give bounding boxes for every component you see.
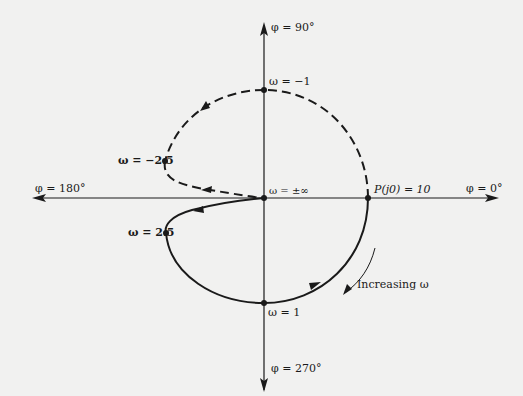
axis-label-phi-90: φ = 90° xyxy=(271,22,314,34)
dashed-direction-arrow-icon xyxy=(200,101,210,111)
label-w-1: ω = 1 xyxy=(268,307,300,319)
positive-frequency-curve xyxy=(166,198,368,303)
vertical-axis xyxy=(260,22,268,392)
key-points xyxy=(162,87,371,306)
label-w-neg2-5: ω = −2.5 xyxy=(118,155,174,167)
axis-label-phi-180: φ = 180° xyxy=(35,183,85,195)
label-w-pm-inf: ω = ±∞ xyxy=(269,185,309,197)
point-w-neg1 xyxy=(261,87,267,93)
point-w-1 xyxy=(261,300,267,306)
negative-frequency-curve xyxy=(165,90,368,198)
label-w-neg1: ω = −1 xyxy=(269,76,310,88)
point-w-pm-inf xyxy=(261,195,267,201)
dashed-direction-arrow-icon xyxy=(201,186,212,193)
annotation-increasing-omega: Increasing ω xyxy=(357,279,429,291)
increasing-arrowhead-icon xyxy=(343,284,352,295)
label-w-2-5: ω = 2.5 xyxy=(128,227,175,239)
polar-plot-canvas xyxy=(0,0,523,396)
axis-label-phi-0: φ = 0° xyxy=(466,183,502,195)
solid-direction-arrow-icon xyxy=(309,282,321,290)
label-p-j0: P(j0) = 10 xyxy=(374,184,431,196)
point-p-j0 xyxy=(365,195,371,201)
axis-label-phi-270: φ = 270° xyxy=(271,363,321,375)
